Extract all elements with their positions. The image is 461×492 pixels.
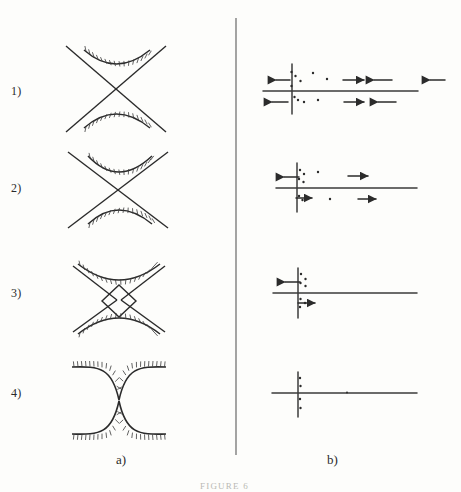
panel-2b-equilibrium-dots [298,169,331,201]
row-label-4: 4) [11,386,21,401]
panel-3a-central-diamond [102,285,136,317]
panel-4b-phase-line [272,372,417,417]
figure-canvas [0,0,461,492]
row-label-2: 2) [11,181,21,196]
panel-3a-hyperbola-diamond [73,261,165,338]
panel-2a-lower-arc [88,210,152,224]
panel-2b-phase-line [276,163,417,212]
column-label-b: b) [327,452,338,468]
panel-3a-line-upper-right [121,266,165,300]
panel-1b-equilibrium-dots [290,71,328,103]
panel-3b-phase-line [273,268,417,318]
panel-4a-cusp-curves [72,361,166,440]
panel-4a-lower-hatching [73,412,165,441]
panel-3a-line-lower-right [121,300,165,332]
panel-1b-phase-line [263,64,445,114]
figure-root: 1) 2) 3) 4) a) b) FIGURE 6 [0,0,461,492]
panel-3a-line-upper-left [73,266,117,300]
panel-2a-hyperbola-narrow [68,152,168,228]
panel-1a-hyperbola-wide [66,46,166,132]
figure-caption: FIGURE 6 [200,481,249,491]
panel-2b-arrows-below [296,198,376,199]
panel-4a-upper-hatching [73,361,165,390]
panel-4a-lower-curve [72,401,166,434]
column-label-a: a) [116,452,126,468]
panel-4a-upper-curve [72,367,166,400]
row-label-1: 1) [11,84,21,99]
panel-3a-line-lower-left [73,300,117,332]
row-label-3: 3) [11,286,21,301]
